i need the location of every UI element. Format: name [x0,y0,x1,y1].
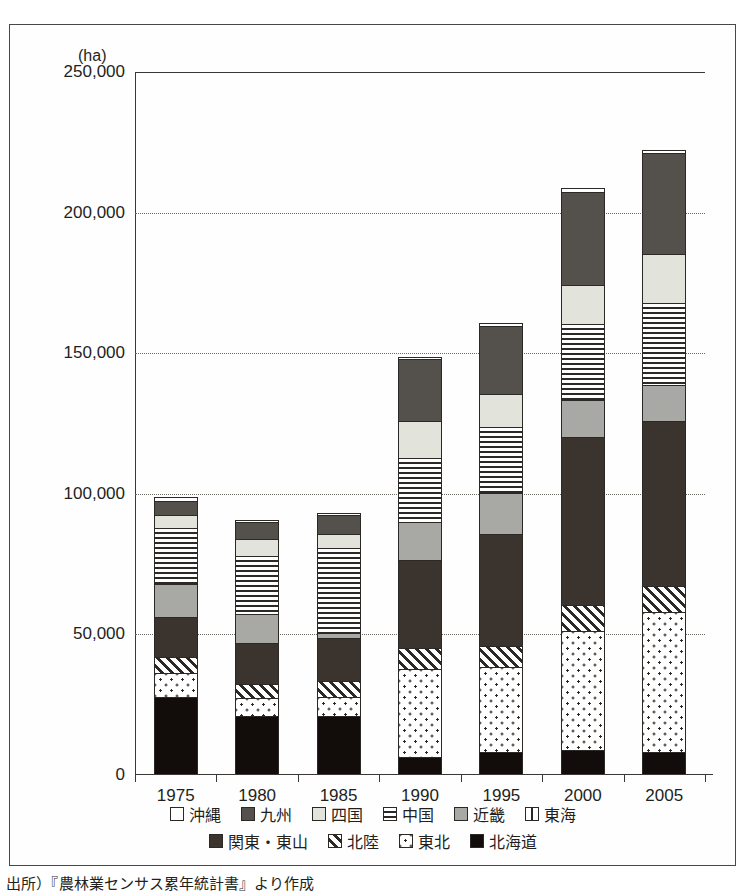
bar-segment-1980-kyushu [235,522,279,539]
bar-segment-1975-hokuriku [154,657,198,672]
bar-segment-2005-shikoku [642,254,686,303]
bar-segment-2005-kinki [642,385,686,422]
legend-label-okinawa: 沖縄 [189,802,221,826]
bar-segment-1995-chugoku [479,427,523,493]
bar-segment-1975-shikoku [154,515,198,528]
gridline-150000 [135,353,705,354]
bar-segment-1995-kanto [479,534,523,646]
bar-2000[interactable] [561,188,605,774]
bar-segment-1990-tohoku [398,669,442,758]
bar-1975[interactable] [154,497,198,774]
dark-gray-swatch-icon [241,807,255,821]
x-tick-2005 [624,775,625,782]
bar-segment-2000-chugoku [561,324,605,400]
plot-area: 050,000100,000150,000200,000250,000 1975… [135,72,705,775]
bar-1990[interactable] [398,357,442,775]
bar-2005[interactable] [642,150,686,774]
legend-item-hokkaido[interactable]: 北海道 [470,829,537,853]
bar-segment-2000-hokuriku [561,605,605,630]
dotted-swatch-icon [399,834,413,848]
legend-label-tohoku: 東北 [418,829,450,853]
bar-segment-1975-kyushu [154,501,198,515]
bar-segment-2000-kanto [561,437,605,606]
bar-segment-1980-kanto [235,643,279,684]
bar-segment-1980-chugoku [235,556,279,614]
y-tick-label-200000: 200,000 [25,203,125,223]
x-tick-1990 [379,775,380,782]
legend-label-kanto: 関東・東山 [228,829,308,853]
legend-label-hokkaido: 北海道 [489,829,537,853]
bar-segment-2000-kinki [561,400,605,437]
y-tick-label-50000: 50,000 [25,624,125,644]
bar-segment-1990-kinki [398,522,442,560]
bar-1995[interactable] [479,323,523,774]
x-tick-1975 [135,775,136,782]
bar-segment-1985-chugoku [317,548,361,634]
y-tick-label-250000: 250,000 [25,62,125,82]
y-tick-label-0: 0 [25,765,125,785]
bar-segment-1985-kanto [317,638,361,682]
legend-row-2: 関東・東山北陸東北北海道 [199,829,547,853]
legend-item-hokuriku[interactable]: 北陸 [328,829,379,853]
gridline-200000 [135,213,705,214]
bar-segment-2005-tohoku [642,612,686,751]
bar-segment-1985-hokkaido [317,716,361,774]
bar-segment-1990-chugoku [398,458,442,523]
bar-segment-1985-kyushu [317,515,361,533]
bar-segment-1975-chugoku [154,528,198,584]
bar-segment-1995-hokkaido [479,752,523,774]
bar-segment-2005-hokuriku [642,586,686,613]
legend-row-1: 沖縄九州四国中国近畿東海 [160,802,586,826]
diagonal-hatch-swatch-icon [328,834,342,848]
legend-item-chugoku[interactable]: 中国 [383,802,434,826]
mid-gray-swatch-icon [454,807,468,821]
bar-segment-2000-shikoku [561,285,605,324]
bar-segment-2005-kanto [642,421,686,586]
legend-label-kyushu: 九州 [260,802,292,826]
bar-segment-2000-kyushu [561,192,605,285]
very-dark-swatch-icon [209,834,223,848]
bar-segment-1975-kinki [154,584,198,616]
legend-item-shikoku[interactable]: 四国 [312,802,363,826]
x-tick-2000 [542,775,543,782]
legend-item-okinawa[interactable]: 沖縄 [170,802,221,826]
bar-segment-1980-hokuriku [235,684,279,698]
y-tick-label-100000: 100,000 [25,484,125,504]
legend-label-tokai: 東海 [544,802,576,826]
black-swatch-icon [470,834,484,848]
x-tick-1995 [461,775,462,782]
bar-segment-1980-shikoku [235,539,279,556]
bar-segment-1975-kanto [154,617,198,658]
vertical-lines-swatch-icon [525,807,539,821]
bar-segment-1980-tohoku [235,698,279,716]
legend-item-tokai[interactable]: 東海 [525,802,576,826]
legend-item-kyushu[interactable]: 九州 [241,802,292,826]
axis-top-line [135,72,705,73]
bar-segment-2000-tohoku [561,631,605,751]
source-caption: 出所）『農林業センサス累年統計書』より作成 [6,872,314,893]
bar-segment-2000-hokkaido [561,750,605,774]
legend-label-hokuriku: 北陸 [347,829,379,853]
bar-segment-1985-tohoku [317,697,361,717]
legend-item-kanto[interactable]: 関東・東山 [209,829,308,853]
bar-1985[interactable] [317,513,361,774]
bar-segment-2005-hokkaido [642,752,686,774]
legend-item-tohoku[interactable]: 東北 [399,829,450,853]
bar-segment-1990-kyushu [398,359,442,421]
x-tick-1985 [298,775,299,782]
legend-label-chugoku: 中国 [402,802,434,826]
bar-segment-1995-kyushu [479,326,523,395]
legend-item-kinki[interactable]: 近畿 [454,802,505,826]
bar-segment-1975-tohoku [154,673,198,697]
bar-segment-1995-hokuriku [479,646,523,667]
bar-segment-1975-hokkaido [154,697,198,774]
bar-1980[interactable] [235,520,279,774]
bar-segment-1990-hokkaido [398,757,442,774]
bar-segment-1980-hokkaido [235,716,279,774]
bar-segment-1985-hokuriku [317,681,361,696]
legend: 沖縄九州四国中国近畿東海関東・東山北陸東北北海道 [10,802,735,853]
bar-segment-1980-kinki [235,614,279,644]
bar-segment-1990-kanto [398,560,442,647]
bar-segment-1995-shikoku [479,394,523,426]
x-tick-1980 [216,775,217,782]
